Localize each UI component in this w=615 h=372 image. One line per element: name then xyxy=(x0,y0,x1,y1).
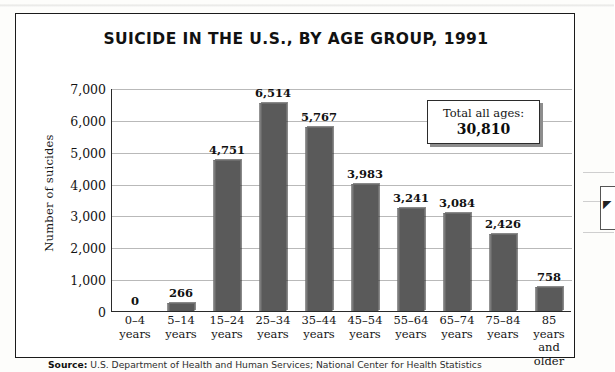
x-axis-tick-label: 35–44 years xyxy=(301,314,336,341)
bar-value-label: 266 xyxy=(169,286,193,300)
bar-slot: 3,983 xyxy=(342,88,388,311)
total-callout-value: 30,810 xyxy=(434,121,533,137)
bar-value-label: 3,084 xyxy=(439,196,475,210)
y-axis-tick-label: 1,000 xyxy=(48,273,112,288)
bar[interactable] xyxy=(490,234,517,311)
bar-value-label: 5,767 xyxy=(301,110,337,124)
y-axis-tick-label: 0 xyxy=(48,305,112,320)
bar[interactable] xyxy=(168,303,195,311)
x-axis-tick-label: 75–84 years xyxy=(485,314,520,341)
x-axis-tick-label: 5–14 years xyxy=(165,314,197,341)
bar-value-label: 0 xyxy=(131,294,139,308)
scan-artifact-top xyxy=(0,4,614,7)
x-axis-tick-label: 15–24 years xyxy=(209,314,244,341)
x-axis-tick-label: 65–74 years xyxy=(439,314,474,341)
bar-value-label: 758 xyxy=(537,270,561,284)
total-callout-label: Total all ages: xyxy=(434,106,533,120)
x-axis-tick-label: 25–34 years xyxy=(255,314,290,341)
bar-slot: 0 xyxy=(112,88,158,311)
y-axis-tick-label: 7,000 xyxy=(48,82,112,97)
y-axis-tick-label: 3,000 xyxy=(48,209,112,224)
bar[interactable] xyxy=(260,103,287,311)
bar-value-label: 4,751 xyxy=(209,143,245,157)
bar[interactable] xyxy=(352,184,379,311)
chart-plot-wrapper: Number of suicides 01,0002,0003,0004,000… xyxy=(16,14,576,359)
x-axis-tick-label: 55–64 years xyxy=(393,314,428,341)
bar-value-label: 2,426 xyxy=(485,217,521,231)
bar[interactable] xyxy=(444,213,471,311)
y-axis-tick-label: 4,000 xyxy=(48,177,112,192)
y-axis-tick-label: 5,000 xyxy=(48,145,112,160)
bar[interactable] xyxy=(536,287,563,311)
x-axis-tick-label: 85 years and older xyxy=(533,314,565,368)
bar-slot: 5,767 xyxy=(296,88,342,311)
y-axis-tick-label: 6,000 xyxy=(48,113,112,128)
bar[interactable] xyxy=(214,160,241,311)
x-axis-tick-label: 45–54 years xyxy=(347,314,382,341)
bar-value-label: 3,241 xyxy=(393,191,429,205)
source-note-prefix: Source: xyxy=(48,359,87,370)
bar-slot: 266 xyxy=(158,88,204,311)
bar-value-label: 6,514 xyxy=(255,86,291,100)
source-note: Source: U.S. Department of Health and Hu… xyxy=(48,359,482,370)
bar-slot: 4,751 xyxy=(204,88,250,311)
bar[interactable] xyxy=(398,208,425,311)
bar[interactable] xyxy=(306,127,333,311)
fragment-glyph-icon: ◤ xyxy=(603,199,611,211)
page-edge-rule-1 xyxy=(583,172,614,173)
x-axis-tick-label: 0–4 years xyxy=(119,314,151,341)
source-note-text: U.S. Department of Health and Human Serv… xyxy=(90,359,481,370)
total-callout-box: Total all ages: 30,810 xyxy=(427,100,540,144)
adjacent-page-fragment: ◤ xyxy=(600,186,615,230)
bar-slot: 6,514 xyxy=(250,88,296,311)
y-axis-tick-label: 2,000 xyxy=(48,241,112,256)
page-edge-rule-3 xyxy=(583,232,614,233)
bar-value-label: 3,983 xyxy=(347,167,383,181)
figure-frame: SUICIDE IN THE U.S., BY AGE GROUP, 1991 … xyxy=(15,13,575,358)
